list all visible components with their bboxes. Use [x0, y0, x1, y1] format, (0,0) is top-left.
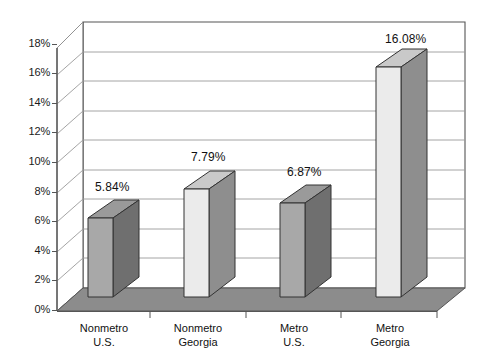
data-label-nonmetro-georgia: 7.79% — [191, 150, 226, 164]
chart-root: 18% 16% 14% 12% 10% 8% 6% 4% 2% 0% 5.84%… — [0, 0, 491, 359]
bar-side-face — [209, 171, 235, 297]
x-category-line-2: Georgia — [152, 335, 244, 349]
y-tick-label-14: 14% — [14, 96, 50, 108]
data-label-nonmetro-us: 5.84% — [95, 180, 130, 194]
chart-canvas — [0, 0, 491, 359]
x-category-label-metro-us: Metro U.S. — [248, 321, 340, 349]
y-tick-label-16: 16% — [14, 66, 50, 78]
y-tick-dash-8 — [52, 192, 57, 193]
bar-nonmetro-us[interactable] — [88, 200, 139, 297]
y-tick-label-4: 4% — [14, 244, 50, 256]
y-tick-label-0: 0% — [14, 303, 50, 315]
bar-front-face — [88, 218, 113, 297]
y-tick-dash-0 — [52, 310, 57, 311]
x-category-line-1: Nonmetro — [58, 321, 150, 335]
y-tick-dash-2 — [52, 280, 57, 281]
x-category-line-1: Nonmetro — [152, 321, 244, 335]
y-tick-label-8: 8% — [14, 185, 50, 197]
x-category-label-nonmetro-us: Nonmetro U.S. — [58, 321, 150, 349]
y-tick-dash-16 — [52, 73, 57, 74]
x-category-line-2: Georgia — [344, 335, 436, 349]
y-tick-dash-12 — [52, 132, 57, 133]
bar-side-face — [401, 49, 427, 297]
y-tick-dash-18 — [52, 44, 57, 45]
x-category-line-2: U.S. — [248, 335, 340, 349]
x-category-label-metro-georgia: Metro Georgia — [344, 321, 436, 349]
y-tick-label-10: 10% — [14, 155, 50, 167]
y-tick-dash-4 — [52, 251, 57, 252]
x-category-line-1: Metro — [344, 321, 436, 335]
y-tick-label-6: 6% — [14, 214, 50, 226]
y-tick-label-18: 18% — [14, 37, 50, 49]
bar-front-face — [280, 203, 305, 297]
bar-front-face — [184, 189, 209, 297]
plot-left-wall — [57, 22, 83, 311]
chart-svg — [0, 0, 491, 359]
bar-metro-georgia[interactable] — [376, 49, 427, 297]
bar-nonmetro-georgia[interactable] — [184, 171, 235, 297]
y-tick-label-2: 2% — [14, 273, 50, 285]
y-tick-dash-6 — [52, 221, 57, 222]
bar-front-face — [376, 67, 401, 297]
y-tick-dash-10 — [52, 162, 57, 163]
data-label-metro-us: 6.87% — [287, 165, 322, 179]
x-category-line-2: U.S. — [58, 335, 150, 349]
bar-metro-us[interactable] — [280, 185, 331, 297]
x-category-line-1: Metro — [248, 321, 340, 335]
y-tick-dash-14 — [52, 103, 57, 104]
x-category-label-nonmetro-georgia: Nonmetro Georgia — [152, 321, 244, 349]
y-tick-label-12: 12% — [14, 125, 50, 137]
bar-side-face — [305, 185, 331, 297]
data-label-metro-georgia: 16.08% — [385, 32, 426, 46]
